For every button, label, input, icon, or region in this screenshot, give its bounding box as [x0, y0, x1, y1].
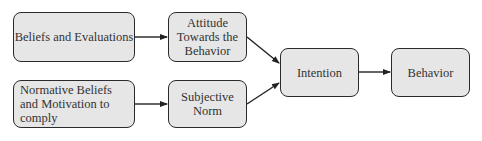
node-label: Normative Beliefs and Motivation to comp…	[20, 83, 128, 125]
node-normative-beliefs: Normative Beliefs and Motivation to comp…	[13, 80, 135, 128]
node-behavior: Behavior	[391, 48, 470, 97]
node-label: Beliefs and Evaluations	[15, 30, 134, 44]
node-label: Intention	[297, 66, 342, 80]
node-beliefs-and-evaluations: Beliefs and Evaluations	[13, 12, 135, 62]
diagram-canvas: Beliefs and Evaluations Attitude Towards…	[0, 0, 482, 141]
node-label: Subjective Norm	[179, 90, 236, 118]
edge-subjective-intention	[247, 83, 279, 104]
node-intention: Intention	[280, 48, 359, 97]
node-attitude-towards-behavior: Attitude Towards the Behavior	[168, 12, 247, 62]
node-label: Behavior	[408, 66, 454, 80]
edge-attitude-intention	[247, 37, 279, 63]
node-label: Attitude Towards the Behavior	[173, 16, 242, 58]
node-subjective-norm: Subjective Norm	[168, 80, 247, 128]
